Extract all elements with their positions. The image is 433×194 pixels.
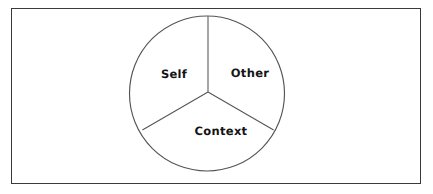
three-sector-circle: [0, 0, 433, 194]
sector-label-other: Other: [231, 66, 269, 80]
diagram-canvas: Self Other Context: [0, 0, 433, 194]
sector-label-self: Self: [161, 67, 187, 81]
sector-label-context: Context: [195, 124, 248, 138]
circle-outline: [130, 16, 285, 171]
